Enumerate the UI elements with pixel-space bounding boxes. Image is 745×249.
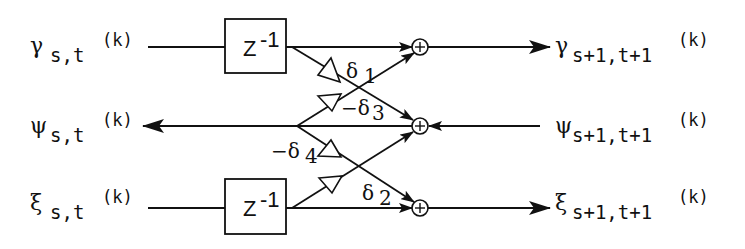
svg-text:−δ: −δ: [341, 96, 370, 120]
gain-triangle-delta2: [319, 176, 342, 193]
svg-text:(k): (k): [102, 110, 133, 130]
svg-text:(k): (k): [102, 187, 133, 207]
signal-flow-diagram: γ s,t (k) ψ s,t (k) ξ s,t (k) Z -1 Z -1: [0, 0, 745, 249]
adder-middle: [412, 118, 428, 134]
svg-text:(k): (k): [102, 30, 133, 50]
input-label-psi: ψ s,t (k): [30, 110, 133, 146]
svg-text:(k): (k): [678, 187, 709, 207]
svg-text:s,t: s,t: [50, 201, 84, 223]
svg-text:s,t: s,t: [50, 124, 84, 146]
adder-bottom: [412, 200, 428, 216]
input-label-xi: ξ s,t (k): [30, 187, 133, 223]
input-label-gamma: γ s,t (k): [30, 30, 133, 66]
svg-text:-1: -1: [260, 27, 280, 52]
svg-text:Z: Z: [243, 196, 256, 221]
svg-text:ψ: ψ: [30, 113, 47, 138]
svg-text:(k): (k): [678, 30, 709, 50]
output-label-psi: ψ s+1,t+1 (k): [555, 110, 709, 146]
adder-top: [412, 39, 428, 55]
svg-text:ψ: ψ: [555, 113, 572, 138]
svg-text:s,t: s,t: [50, 44, 84, 66]
gain-triangle-delta3: [318, 94, 341, 111]
svg-text:s+1,t+1: s+1,t+1: [572, 44, 652, 66]
svg-text:4: 4: [305, 144, 318, 168]
gain-label-delta3: −δ 3: [341, 96, 385, 125]
svg-text:-1: -1: [260, 187, 280, 212]
svg-text:−δ: −δ: [271, 139, 300, 163]
svg-text:δ: δ: [362, 181, 374, 205]
svg-text:δ: δ: [346, 59, 358, 83]
gain-label-delta4: −δ 4: [271, 139, 318, 168]
svg-text:ξ: ξ: [555, 190, 567, 215]
output-label-gamma: γ s+1,t+1 (k): [555, 30, 709, 66]
gain-triangle-delta1: [318, 58, 340, 82]
gain-label-delta1: δ 1: [346, 59, 377, 88]
svg-text:ξ: ξ: [30, 190, 42, 215]
svg-text:Z: Z: [243, 36, 256, 61]
svg-text:γ: γ: [555, 33, 568, 58]
svg-text:3: 3: [372, 101, 385, 125]
svg-text:s+1,t+1: s+1,t+1: [572, 201, 652, 223]
svg-text:γ: γ: [30, 33, 43, 58]
gain-label-delta2: δ 2: [362, 181, 392, 210]
svg-text:(k): (k): [678, 110, 709, 130]
svg-text:2: 2: [379, 186, 392, 210]
delay-box-bottom: Z -1: [225, 179, 286, 234]
delay-box-top: Z -1: [225, 19, 286, 73]
output-label-xi: ξ s+1,t+1 (k): [555, 187, 709, 223]
svg-text:1: 1: [364, 64, 377, 88]
svg-text:s+1,t+1: s+1,t+1: [572, 124, 652, 146]
